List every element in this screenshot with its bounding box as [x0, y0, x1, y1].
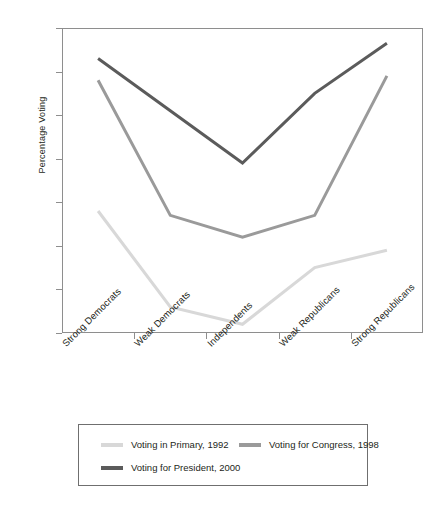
y-tick-mark	[56, 333, 62, 334]
legend-swatch-primary-1992	[101, 443, 123, 447]
legend-label-primary-1992: Voting in Primary, 1992	[131, 439, 229, 450]
legend: Voting in Primary, 1992 Voting for Congr…	[78, 424, 368, 486]
legend-entry-congress-1998: Voting for Congress, 1998	[239, 439, 379, 450]
legend-entry-president-2000: Voting for President, 2000	[101, 462, 240, 473]
line-chart-figure: Percentage Voting 2030405060708090 Stron…	[0, 0, 446, 505]
legend-label-congress-1998: Voting for Congress, 1998	[269, 439, 379, 450]
legend-label-president-2000: Voting for President, 2000	[131, 462, 240, 473]
y-axis-title: Percentage Voting	[37, 55, 47, 215]
legend-swatch-president-2000	[101, 466, 123, 470]
legend-entry-primary-1992: Voting in Primary, 1992	[101, 439, 229, 450]
legend-swatch-congress-1998	[239, 443, 261, 447]
